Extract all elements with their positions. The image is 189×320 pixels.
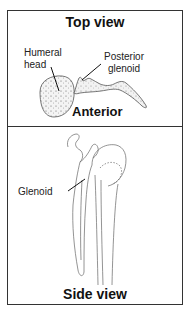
humeral-head-shape [40, 76, 74, 117]
side-view-title: Side view [7, 286, 183, 302]
posterior-glenoid-leader [82, 64, 101, 80]
anatomy-illustration [0, 0, 189, 320]
scapula-top-shape [74, 77, 146, 107]
side-view-bones [67, 134, 126, 285]
glenoid-label: Glenoid [18, 186, 52, 198]
